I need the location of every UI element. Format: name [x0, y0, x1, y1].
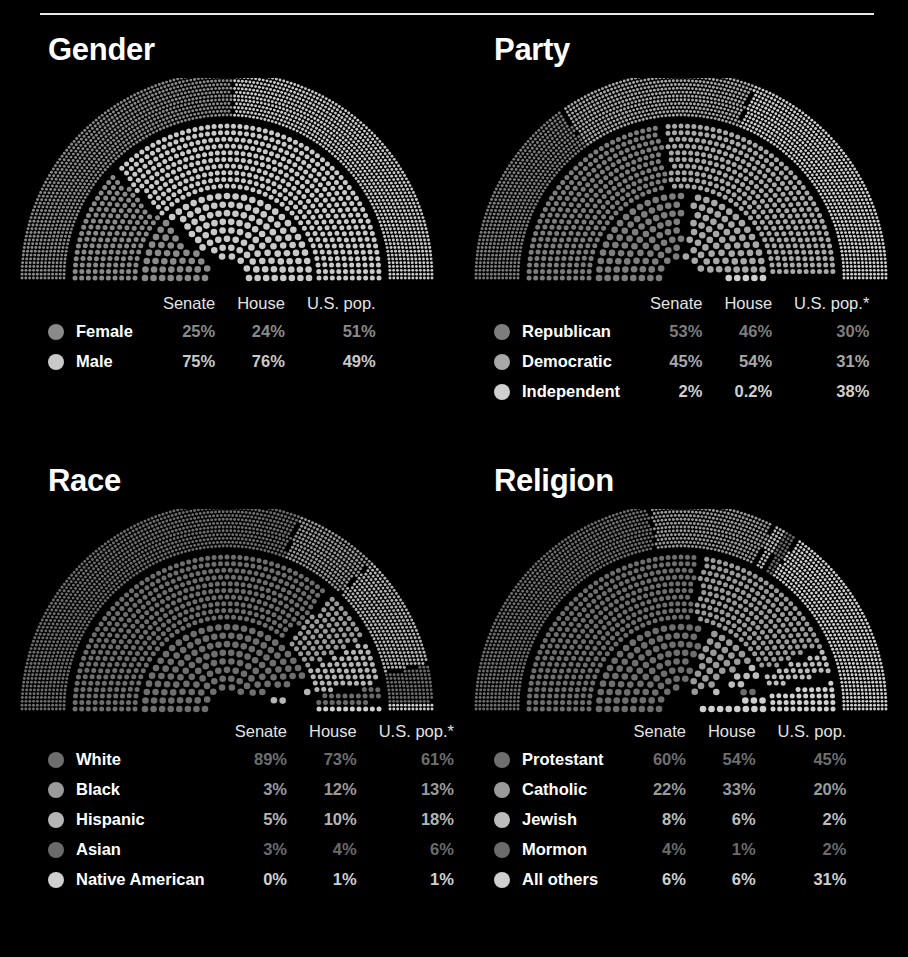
value-senate: 22%: [608, 780, 686, 810]
legend-row[interactable]: Male75%76%49%: [48, 352, 376, 382]
column-header-house: House: [702, 294, 772, 322]
panel-religion: Religion SenateHouseU.S. pop.Protestant6…: [454, 457, 908, 927]
value-senate: 75%: [137, 352, 215, 382]
legend-swatch-cell: [48, 780, 74, 810]
legend-swatch-cell: [494, 352, 520, 382]
value-senate: 4%: [608, 840, 686, 870]
legend-row[interactable]: Democratic45%54%31%: [494, 352, 869, 382]
legend-header-spacer: [494, 722, 520, 750]
value-house: 73%: [287, 750, 357, 780]
legend-row[interactable]: Black3%12%13%: [48, 780, 454, 810]
legend-row[interactable]: Catholic22%33%20%: [494, 780, 846, 810]
legend-header-spacer: [494, 294, 520, 322]
legend-swatch-cell: [48, 810, 74, 840]
column-header-senate: Senate: [137, 294, 215, 322]
value-house: 76%: [215, 352, 285, 382]
legend-swatch-cell: [48, 750, 74, 780]
legend-category-label: Republican: [520, 322, 624, 352]
legend-color-dot-icon: [48, 782, 64, 798]
chart-party: [454, 78, 908, 283]
legend-row[interactable]: Mormon4%1%2%: [494, 840, 846, 870]
value-senate: 89%: [209, 750, 287, 780]
panel-race: Race SenateHouseU.S. pop.*White89%73%61%…: [0, 457, 454, 927]
value-us-pop: 45%: [756, 750, 847, 780]
legend-color-dot-icon: [48, 354, 64, 370]
legend-category-label: Native American: [74, 870, 209, 900]
value-house: 1%: [686, 840, 756, 870]
legend-header-row: SenateHouseU.S. pop.: [48, 294, 376, 322]
legend-category-label: Male: [74, 352, 137, 382]
legend-table: SenateHouseU.S. pop.Protestant60%54%45%C…: [494, 722, 846, 900]
value-senate: 25%: [137, 322, 215, 352]
column-header-us-pop: U.S. pop.*: [357, 722, 454, 750]
legend-row[interactable]: Protestant60%54%45%: [494, 750, 846, 780]
page-title-gender: Gender: [48, 34, 155, 65]
value-senate: 8%: [608, 810, 686, 840]
legend-row[interactable]: Asian3%4%6%: [48, 840, 454, 870]
legend-swatch-cell: [494, 810, 520, 840]
value-house: 1%: [287, 870, 357, 900]
value-house: 6%: [686, 810, 756, 840]
legend-swatch-cell: [48, 840, 74, 870]
arc-ring-senate: [596, 193, 767, 282]
value-senate: 5%: [209, 810, 287, 840]
value-senate: 0%: [209, 870, 287, 900]
arc-ring-uspop: [21, 509, 434, 710]
value-us-pop: 49%: [285, 352, 376, 382]
value-us-pop: 31%: [772, 352, 869, 382]
value-us-pop: 30%: [772, 322, 869, 352]
legend-row[interactable]: Republican53%46%30%: [494, 322, 869, 352]
value-us-pop: 1%: [357, 870, 454, 900]
legend-category-label: All others: [520, 870, 608, 900]
legend-row[interactable]: Hispanic5%10%18%: [48, 810, 454, 840]
column-header-us-pop: U.S. pop.: [756, 722, 847, 750]
panel-party: Party SenateHouseU.S. pop.*Republican53%…: [454, 26, 908, 456]
value-us-pop: 13%: [357, 780, 454, 810]
value-house: 12%: [287, 780, 357, 810]
value-house: 33%: [686, 780, 756, 810]
legend-row[interactable]: Jewish8%6%2%: [494, 810, 846, 840]
legend-swatch-cell: [494, 840, 520, 870]
legend-category-label: Mormon: [520, 840, 608, 870]
legend-color-dot-icon: [48, 872, 64, 888]
legend-category-label: Independent: [520, 382, 624, 412]
legend-category-label: Democratic: [520, 352, 624, 382]
legend-table: SenateHouseU.S. pop.*Republican53%46%30%…: [494, 294, 869, 412]
chart-gender: [0, 78, 454, 283]
legend-color-dot-icon: [48, 324, 64, 340]
value-house: 54%: [702, 352, 772, 382]
value-house: 6%: [686, 870, 756, 900]
legend-swatch-cell: [494, 382, 520, 412]
legend-header-category: [74, 294, 137, 322]
legend-row[interactable]: Independent2%0.2%38%: [494, 382, 869, 412]
legend-row[interactable]: Native American0%1%1%: [48, 870, 454, 900]
arc-ring-uspop: [475, 509, 888, 710]
legend-swatch-cell: [494, 322, 520, 352]
value-us-pop: 51%: [285, 322, 376, 352]
legend-category-label: Asian: [74, 840, 209, 870]
legend-swatch-cell: [494, 780, 520, 810]
legend-category-label: Protestant: [520, 750, 608, 780]
legend-swatch-cell: [494, 750, 520, 780]
value-us-pop: 18%: [357, 810, 454, 840]
legend-header-category: [74, 722, 209, 750]
legend-row[interactable]: All others6%6%31%: [494, 870, 846, 900]
legend-category-label: Female: [74, 322, 137, 352]
legend-color-dot-icon: [494, 872, 510, 888]
legend-category-label: Hispanic: [74, 810, 209, 840]
value-house: 10%: [287, 810, 357, 840]
dot-arc-svg: [454, 78, 908, 283]
legend-category-label: Black: [74, 780, 209, 810]
value-senate: 2%: [624, 382, 702, 412]
arc-ring-senate: [596, 624, 767, 713]
legend-religion: SenateHouseU.S. pop.Protestant60%54%45%C…: [454, 722, 908, 900]
legend-table: SenateHouseU.S. pop.*White89%73%61%Black…: [48, 722, 454, 900]
column-header-house: House: [215, 294, 285, 322]
legend-color-dot-icon: [494, 384, 510, 400]
column-header-us-pop: U.S. pop.: [285, 294, 376, 322]
arc-ring-uspop: [21, 78, 434, 279]
legend-color-dot-icon: [494, 752, 510, 768]
legend-color-dot-icon: [48, 752, 64, 768]
legend-row[interactable]: Female25%24%51%: [48, 322, 376, 352]
legend-row[interactable]: White89%73%61%: [48, 750, 454, 780]
